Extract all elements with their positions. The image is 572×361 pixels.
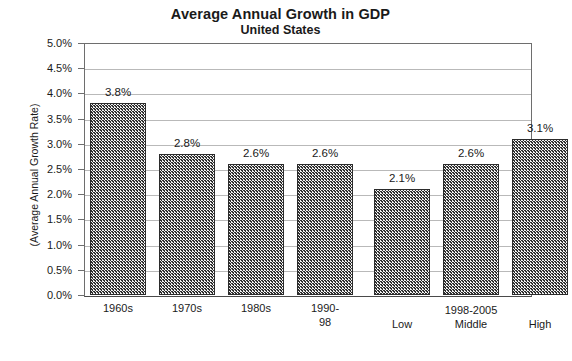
bar-value-label: 2.6% (216, 147, 296, 159)
y-axis-tick-label: 0.5% (47, 264, 72, 275)
bar-1990--98[interactable] (297, 164, 353, 295)
bars-layer: 3.8%2.8%2.6%2.6%2.1%2.6%3.1% (84, 43, 530, 295)
bar-value-label: 2.8% (147, 137, 227, 149)
y-axis-tick-label: 1.0% (47, 239, 72, 250)
chart-title-block: Average Annual Growth in GDP United Stat… (0, 6, 561, 38)
bar-1960s[interactable] (90, 103, 146, 295)
y-axis-tick-label: 5.0% (47, 38, 72, 49)
bar-value-label: 2.1% (362, 172, 442, 184)
y-axis-title: (Average Annual Growth Rate) (28, 60, 40, 290)
y-axis-tick-label: 3.5% (47, 113, 72, 124)
chart-subtitle: United States (0, 23, 561, 38)
bar-value-label: 2.6% (431, 147, 511, 159)
x-axis-group-label: 1998-2005 (411, 304, 531, 317)
bar-value-label: 3.1% (500, 122, 572, 134)
y-axis-tick-label: 2.5% (47, 164, 72, 175)
page-title: Average Annual Growth in GDP (0, 6, 561, 23)
bar-1980s[interactable] (228, 164, 284, 295)
x-axis: 1960s1970s1980s1990- 98LowMiddleHigh1998… (84, 296, 530, 361)
y-axis-tick-label: 0.0% (47, 290, 72, 301)
y-axis-tick-label: 1.5% (47, 214, 72, 225)
y-axis: (Average Annual Growth Rate) 5.0%4.5%4.0… (0, 0, 84, 361)
bar-high[interactable] (512, 139, 568, 295)
y-axis-tick-label: 4.0% (47, 88, 72, 99)
bar-low[interactable] (374, 189, 430, 295)
x-axis-tick-label: 1990- 98 (283, 302, 367, 329)
x-axis-tick-label: High (498, 318, 572, 332)
bar-value-label: 2.6% (285, 147, 365, 159)
bar-1970s[interactable] (159, 154, 215, 295)
bar-value-label: 3.8% (78, 86, 158, 98)
bar-middle[interactable] (443, 164, 499, 295)
y-axis-tick-label: 2.0% (47, 189, 72, 200)
y-axis-tick-label: 4.5% (47, 63, 72, 74)
y-axis-tick-label: 3.0% (47, 138, 72, 149)
